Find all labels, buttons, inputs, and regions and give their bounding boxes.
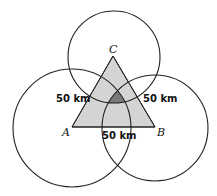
distance-label-left: 50 km <box>56 93 90 104</box>
vertex-label-a: A <box>61 126 70 139</box>
distance-label-right: 50 km <box>143 93 177 104</box>
three-circle-triangle-diagram: C A B 50 km 50 km 50 km <box>0 0 217 196</box>
triangle-abc <box>72 56 155 127</box>
circle-b <box>102 75 208 181</box>
distance-label-bottom: 50 km <box>102 130 136 141</box>
vertex-label-c: C <box>109 43 118 56</box>
vertex-label-b: B <box>156 126 165 139</box>
